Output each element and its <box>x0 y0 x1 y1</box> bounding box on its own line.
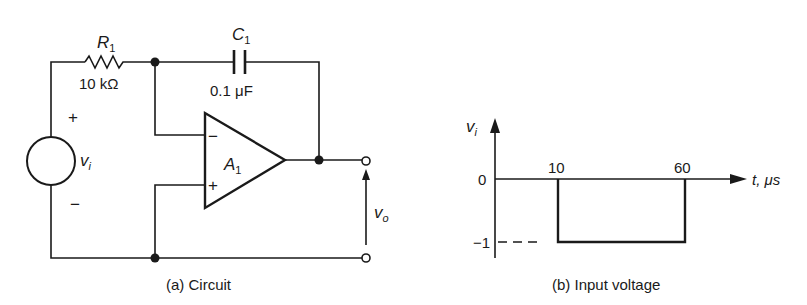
voltage-source-vi <box>27 137 75 185</box>
diagram-canvas: R1 10 kΩ C1 0.1 μF A1 − + + − vi vo (a) … <box>0 0 807 305</box>
y-tick-minus1: −1 <box>473 234 490 251</box>
source-plus-sign: + <box>68 108 78 127</box>
resistor-r1 <box>85 56 126 68</box>
x-axis-arrow-icon <box>730 174 747 184</box>
y-axis-arrow-icon <box>490 118 500 133</box>
x-tick-10: 10 <box>548 159 565 176</box>
opamp-noninverting-sign: + <box>208 176 218 195</box>
output-terminal-bottom <box>362 254 370 262</box>
input-pulse <box>558 179 685 242</box>
vo-arrow-icon <box>362 169 370 180</box>
y-axis-label: vi <box>466 117 478 138</box>
c1-label: C1 <box>232 25 250 46</box>
opamp-inverting-sign: − <box>208 127 218 146</box>
output-terminal-top <box>362 157 370 165</box>
circuit-caption: (a) Circuit <box>166 276 232 293</box>
y-tick-0: 0 <box>478 171 486 188</box>
plot-caption: (b) Input voltage <box>552 276 660 293</box>
input-plot-axes <box>495 130 735 258</box>
x-tick-60: 60 <box>674 159 691 176</box>
r1-value: 10 kΩ <box>79 75 119 92</box>
r1-label: R1 <box>97 33 115 54</box>
output-label: vo <box>374 203 389 224</box>
c1-value: 0.1 μF <box>210 82 253 99</box>
opamp-label: A1 <box>223 155 241 176</box>
source-minus-sign: − <box>70 195 80 214</box>
x-axis-label: t, μs <box>752 171 781 188</box>
source-label: vi <box>80 151 92 172</box>
